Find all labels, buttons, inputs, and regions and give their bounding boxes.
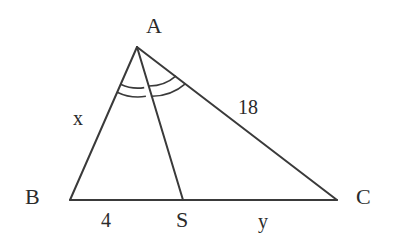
- vertex-label-b: B: [25, 186, 40, 208]
- segment-as-bisector: [137, 47, 183, 200]
- side-label-ab: x: [73, 108, 83, 128]
- angle-bas-arc-inner: [121, 84, 145, 88]
- side-label-bs: 4: [101, 210, 111, 230]
- angle-sac-arc-inner: [148, 76, 176, 86]
- vertex-label-c: C: [356, 186, 371, 208]
- side-label-ac: 18: [238, 97, 258, 117]
- triangle-diagram-svg: [0, 0, 394, 247]
- vertex-label-s: S: [176, 209, 188, 231]
- segment-ac: [137, 47, 337, 200]
- vertex-label-a: A: [146, 15, 162, 37]
- angle-bas-arc-outer: [117, 92, 146, 97]
- side-label-sc: y: [258, 211, 268, 231]
- geometry-figure: A B C S x 18 4 y: [0, 0, 394, 247]
